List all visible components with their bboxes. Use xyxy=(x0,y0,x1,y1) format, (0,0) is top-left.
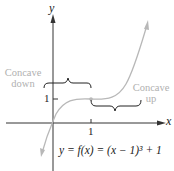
annotation-concave-down-line2: down xyxy=(0,78,46,89)
annotation-concave-up-line1: Concave xyxy=(128,82,174,93)
brace-concave-down xyxy=(44,78,91,88)
curve-arrow-up-icon xyxy=(144,20,149,30)
annotation-concave-down: Concave down xyxy=(0,67,46,89)
y-axis-label: y xyxy=(49,1,54,16)
x-axis-arrow-icon xyxy=(157,121,166,126)
x-axis-label: x xyxy=(166,114,171,129)
annotation-concave-up-line2: up xyxy=(128,93,174,104)
curve-arrow-down-icon xyxy=(40,148,45,157)
x-tick-label: 1 xyxy=(88,125,94,137)
annotation-concave-up: Concave up xyxy=(128,82,174,104)
function-equation: y = f(x) = (x − 1)³ + 1 xyxy=(59,144,162,156)
y-tick-label: 1 xyxy=(44,92,50,104)
annotation-concave-down-line1: Concave xyxy=(0,67,46,78)
